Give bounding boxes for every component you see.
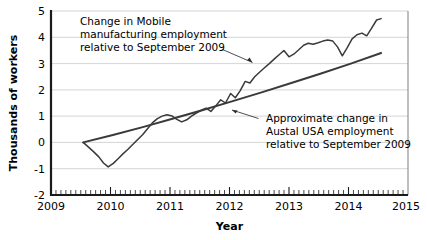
x-tick-label: 2014 [335, 200, 363, 213]
x-tick-label: 2010 [97, 200, 125, 213]
y-tick-label: 5 [38, 5, 45, 18]
x-tick-label: 2011 [156, 200, 184, 213]
x-tick-label: 2009 [37, 200, 65, 213]
annotation-line: relative to September 2009 [80, 41, 225, 53]
x-axis-tick-labels: 2009 2010 2011 2012 2013 2014 2015 [37, 200, 420, 213]
annotation-line: relative to September 2009 [266, 138, 411, 150]
y-tick-label: -1 [34, 163, 45, 176]
y-axis-tick-labels: 5 4 3 2 1 0 -1 -2 [34, 5, 45, 202]
x-axis-title: Year [215, 220, 244, 233]
annotation-line: Change in Mobile [80, 15, 171, 27]
chart-svg: 5 4 3 2 1 0 -1 -2 2009 2010 2011 2012 20… [0, 0, 427, 240]
x-tick-label: 2013 [275, 200, 303, 213]
y-tick-label: 2 [38, 84, 45, 97]
annotation-line: Approximate change in [266, 112, 388, 124]
y-tick-label: 4 [38, 31, 45, 44]
y-axis-title: Thousands of workers [7, 34, 20, 171]
y-tick-label: 1 [38, 110, 45, 123]
chart-figure: 5 4 3 2 1 0 -1 -2 2009 2010 2011 2012 20… [0, 0, 427, 240]
annotation-line: Austal USA employment [266, 125, 394, 137]
y-tick-label: 3 [38, 58, 45, 71]
x-tick-label: 2015 [392, 200, 420, 213]
annotation-line: manufacturing employment [80, 28, 227, 40]
y-tick-label: 0 [38, 136, 45, 149]
x-tick-label: 2012 [216, 200, 244, 213]
